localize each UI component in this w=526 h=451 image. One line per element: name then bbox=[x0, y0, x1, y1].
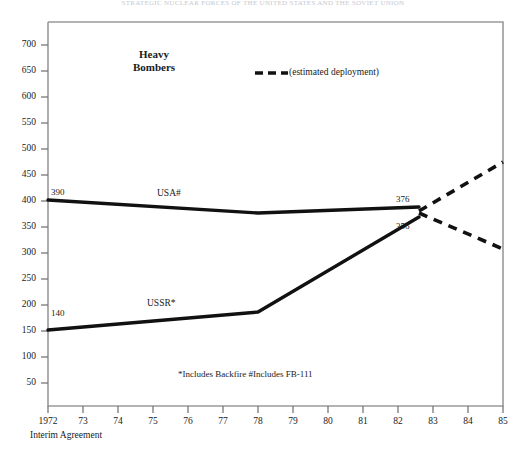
chart-title: Heavy Bombers bbox=[112, 48, 196, 74]
x-tick-label: 79 bbox=[278, 416, 308, 426]
y-tick-label: 50 bbox=[2, 377, 36, 387]
chart-figure: STRATEGIC NUCLEAR FORCES OF THE UNITED S… bbox=[0, 0, 526, 451]
x-axis-ticks bbox=[48, 406, 503, 413]
x-tick-label: 75 bbox=[138, 416, 168, 426]
series-line-usa bbox=[48, 200, 419, 213]
annotation-ussr-start-value: 140 bbox=[51, 308, 65, 318]
y-tick-label: 600 bbox=[2, 91, 36, 101]
chart-title-line1: Heavy bbox=[139, 48, 169, 60]
x-tick-label: 85 bbox=[488, 416, 518, 426]
x-tick-label: 74 bbox=[103, 416, 133, 426]
x-tick-label: 76 bbox=[173, 416, 203, 426]
series-label-ussr: USSR* bbox=[147, 298, 176, 308]
y-axis-ticks bbox=[41, 45, 48, 383]
x-tick-label: 80 bbox=[313, 416, 343, 426]
x-tick-label: 84 bbox=[453, 416, 483, 426]
series-line-ussr bbox=[48, 217, 419, 330]
series-line-projection-upper bbox=[419, 162, 503, 211]
y-tick-label: 150 bbox=[2, 325, 36, 335]
y-tick-label: 650 bbox=[2, 65, 36, 75]
x-tick-label: 81 bbox=[348, 416, 378, 426]
axis-note-interim-agreement: Interim Agreement bbox=[30, 430, 102, 440]
x-tick-label: 82 bbox=[383, 416, 413, 426]
y-tick-label: 450 bbox=[2, 169, 36, 179]
y-tick-label: 100 bbox=[2, 351, 36, 361]
y-tick-label: 400 bbox=[2, 195, 36, 205]
series-line-projection-lower bbox=[419, 213, 503, 249]
annotation-usa-start-value: 390 bbox=[51, 187, 65, 197]
y-tick-label: 300 bbox=[2, 247, 36, 257]
x-tick-label: 78 bbox=[243, 416, 273, 426]
legend-label: (estimated deployment) bbox=[289, 67, 379, 77]
y-tick-label: 350 bbox=[2, 221, 36, 231]
chart-title-line2: Bombers bbox=[133, 61, 175, 73]
y-tick-label: 200 bbox=[2, 299, 36, 309]
x-tick-label: 83 bbox=[418, 416, 448, 426]
y-tick-label: 700 bbox=[2, 39, 36, 49]
annotation-ussr-end-value: 356 bbox=[396, 221, 410, 231]
y-tick-label: 250 bbox=[2, 273, 36, 283]
series-label-usa: USA# bbox=[157, 188, 181, 198]
annotation-usa-end-value: 376 bbox=[396, 194, 410, 204]
x-tick-label: 73 bbox=[68, 416, 98, 426]
x-tick-label: 77 bbox=[208, 416, 238, 426]
y-tick-label: 500 bbox=[2, 143, 36, 153]
y-tick-label: 550 bbox=[2, 117, 36, 127]
footnote: *Includes Backfire #Includes FB-111 bbox=[178, 369, 313, 379]
chart-canvas bbox=[0, 0, 526, 451]
x-tick-label: 1972 bbox=[30, 416, 66, 426]
